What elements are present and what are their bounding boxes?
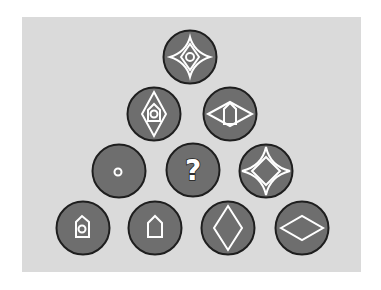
question-mark-icon: ? <box>185 154 201 187</box>
tile-r4c3[interactable] <box>202 202 255 255</box>
tile-r4c1[interactable] <box>57 202 110 255</box>
tile-r2c2[interactable] <box>204 88 257 141</box>
tile-r2c1[interactable] <box>128 88 181 141</box>
tile-r4c2[interactable] <box>129 202 182 255</box>
tile-r4c4[interactable] <box>276 202 329 255</box>
tile-r3c1[interactable] <box>93 145 146 198</box>
puzzle-board: ? <box>0 0 381 290</box>
tile-r3c3[interactable] <box>240 145 293 198</box>
